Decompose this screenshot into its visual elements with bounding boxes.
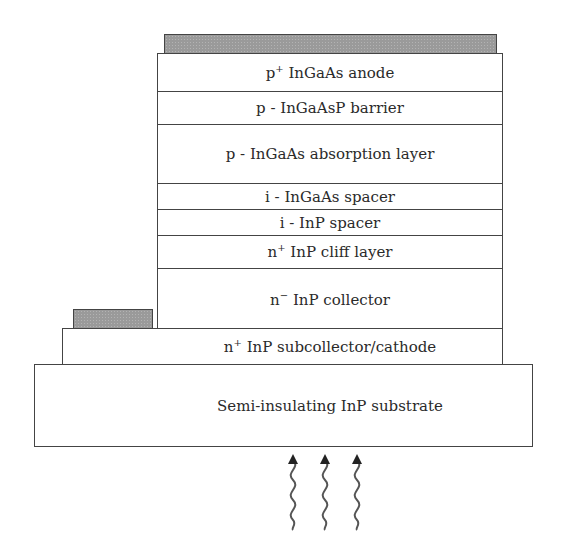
substrate-label: Semi-insulating InP substrate	[157, 364, 503, 447]
layer-collector: n− InP collector	[158, 268, 502, 330]
wavy-arrow-icon	[323, 460, 328, 530]
arrowhead-icon	[352, 454, 362, 464]
layer-label: n− InP collector	[270, 291, 390, 309]
wavy-arrow-icon	[291, 460, 296, 530]
incident-light-icon	[270, 448, 380, 538]
arrowhead-icon	[320, 454, 330, 464]
layer-label: p+ InGaAs anode	[266, 64, 395, 82]
cathode-contact	[73, 309, 153, 329]
anode-contact	[164, 34, 497, 54]
layer-ingaas-spacer: i - InGaAs spacer	[158, 183, 502, 209]
layer-inp-spacer: i - InP spacer	[158, 209, 502, 235]
layer-label: i - InP spacer	[280, 214, 381, 232]
layer-anode: p+ InGaAs anode	[158, 54, 502, 91]
mesa-stack: p+ InGaAs anode p - InGaAsP barrier p - …	[157, 53, 503, 329]
layer-cliff: n+ InP cliff layer	[158, 235, 502, 268]
layer-label: i - InGaAs spacer	[265, 188, 395, 206]
layer-label: n+ InP cliff layer	[268, 243, 393, 261]
layer-absorption: p - InGaAs absorption layer	[158, 124, 502, 183]
arrowhead-icon	[288, 454, 298, 464]
layer-barrier: p - InGaAsP barrier	[158, 91, 502, 124]
layer-label: p - InGaAsP barrier	[256, 99, 404, 117]
wavy-arrow-icon	[355, 460, 360, 530]
subcollector-label: n+ InP subcollector/cathode	[157, 328, 503, 365]
layer-label: p - InGaAs absorption layer	[226, 145, 435, 163]
